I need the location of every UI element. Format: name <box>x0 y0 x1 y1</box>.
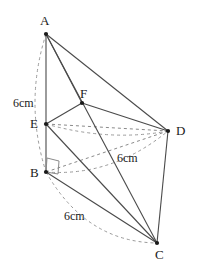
edge-E-F <box>46 103 82 124</box>
vertex-label-A: A <box>40 14 49 27</box>
vertex-dot-group <box>44 32 170 245</box>
vertex-dot-B <box>44 170 48 174</box>
measure-label-BD: 6cm <box>117 152 138 164</box>
vertex-dot-A <box>44 32 48 36</box>
vertex-dot-C <box>155 241 159 245</box>
geometry-canvas <box>0 0 198 276</box>
vertex-label-F: F <box>80 87 87 100</box>
vertex-dot-F <box>80 101 84 105</box>
edge-A-F <box>46 34 82 103</box>
vertex-label-B: B <box>30 166 39 179</box>
vertex-dot-E <box>44 122 48 126</box>
vertex-dot-D <box>166 129 170 133</box>
geometry-diagram: A B C D E F 6cm 6cm 6cm <box>0 0 198 276</box>
vertex-label-E: E <box>30 117 38 130</box>
vertex-label-D: D <box>176 124 185 137</box>
edge-B-C <box>46 172 157 243</box>
edge-B-D-hidden <box>46 131 168 172</box>
edge-A-D <box>46 34 168 131</box>
measure-label-AB: 6cm <box>13 97 34 109</box>
edge-E-C <box>46 124 157 243</box>
arc-A-B <box>35 34 46 172</box>
measure-label-BC: 6cm <box>64 210 85 222</box>
vertex-label-C: C <box>155 248 164 261</box>
edge-D-C <box>157 131 168 243</box>
